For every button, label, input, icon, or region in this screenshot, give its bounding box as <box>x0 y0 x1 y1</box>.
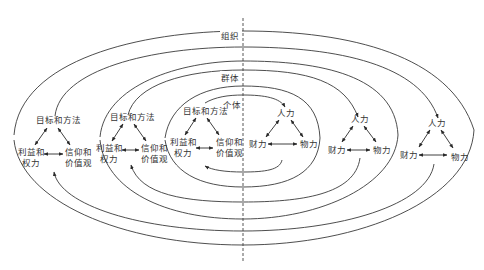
bidirectional-arrow <box>112 124 123 141</box>
financial-resources-label: 财力 <box>400 150 418 160</box>
bidirectional-arrow <box>342 126 353 142</box>
bidirectional-arrow <box>291 120 303 137</box>
individual-inner-arc-bottom <box>205 160 282 172</box>
beliefs-values-label-line1: 信仰和 <box>65 147 92 157</box>
interests-power-label-line2: 权力 <box>100 154 118 164</box>
human-resources-label: 人力 <box>428 118 446 128</box>
interests-power-label-line1: 利益和 <box>18 147 45 157</box>
interests-power-label-line2: 权力 <box>174 148 192 158</box>
beliefs-values-label-line1: 信仰和 <box>216 137 243 147</box>
material-resources-label: 物力 <box>300 139 318 149</box>
financial-resources-label: 财力 <box>249 139 267 149</box>
material-resources-label: 物力 <box>451 152 469 162</box>
interests-power-label-line2: 权力 <box>22 158 40 168</box>
left-triangle-group: 目标和方法 利益和 权力 信仰和 价值观 <box>96 112 168 164</box>
bidirectional-arrow <box>266 120 279 137</box>
bidirectional-arrow <box>207 118 219 135</box>
beliefs-values-label-line2: 价值观 <box>216 148 243 158</box>
goals-methods-label: 目标和方法 <box>36 115 81 125</box>
bidirectional-arrow <box>364 126 376 142</box>
right-triangle-organization: 人力 财力 物力 <box>400 118 469 162</box>
goals-methods-label: 目标和方法 <box>183 106 228 116</box>
material-resources-label: 物力 <box>373 145 391 155</box>
nested-ellipse-diagram: 组织 群体 个体 目标和方法 利益和 权力 信仰和 价值观 目标和方法 利益和 … <box>0 0 484 270</box>
interests-power-label-line1: 利益和 <box>170 137 197 147</box>
right-triangle-individual: 人力 财力 物力 <box>249 108 318 149</box>
org-inner-arc-top <box>55 47 438 118</box>
interests-power-label-line1: 利益和 <box>96 143 123 153</box>
beliefs-values-label-line2: 价值观 <box>141 154 168 164</box>
goals-methods-label: 目标和方法 <box>110 112 155 122</box>
financial-resources-label: 财力 <box>328 145 346 155</box>
bidirectional-arrow <box>58 128 70 145</box>
bidirectional-arrow <box>419 130 430 147</box>
human-resources-label: 人力 <box>351 114 369 124</box>
beliefs-values-label-line1: 信仰和 <box>141 143 168 153</box>
bidirectional-arrow <box>35 128 47 145</box>
left-triangle-individual: 目标和方法 利益和 权力 信仰和 价值观 <box>170 106 243 158</box>
beliefs-values-label-line2: 价值观 <box>65 158 92 168</box>
level-label-organization: 组织 <box>221 31 239 41</box>
bidirectional-arrow <box>441 130 453 148</box>
group-outer-arc-top <box>100 61 398 137</box>
bidirectional-arrow <box>134 124 146 141</box>
group-inner-arc-bottom <box>131 158 360 202</box>
org-inner-arc-bottom <box>54 164 434 231</box>
right-triangle-group: 人力 财力 物力 <box>328 114 391 155</box>
bidirectional-arrow <box>185 118 196 135</box>
human-resources-label: 人力 <box>277 108 295 118</box>
level-label-group: 群体 <box>221 73 239 83</box>
left-triangle-organization: 目标和方法 利益和 权力 信仰和 价值观 <box>18 115 92 168</box>
